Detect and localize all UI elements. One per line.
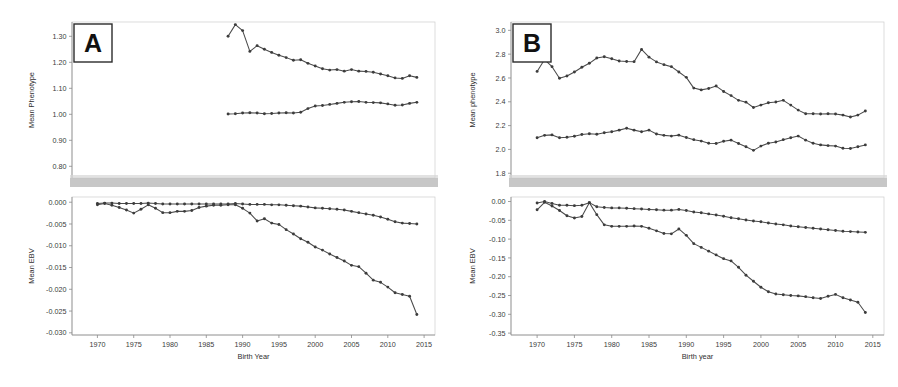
panel-b-ebv-lower-ebv-series-point — [774, 293, 777, 296]
panel-b-ebv-x-ticklabel: 1985 — [641, 340, 657, 349]
panel-b-phenotype-upper-phenotype-series-point — [804, 112, 807, 115]
panel-a-ebv-x-ticklabel: 2005 — [344, 340, 360, 349]
panel-a-phenotype-upper-phenotype-series-point — [328, 69, 331, 72]
panel-a-phenotype-upper-phenotype-series-point — [227, 35, 230, 38]
panel-b-ebv-upper-ebv-series-point — [819, 228, 822, 231]
panel-b-ebv-lower-ebv-series-point — [588, 201, 591, 204]
panel-a-ebv-upper-ebv-series-point — [307, 206, 310, 209]
panel-b-phenotype-lower-phenotype-series-point — [842, 147, 845, 150]
panel-b-ebv-upper-ebv-series-point — [834, 229, 837, 232]
panel-a-ebv-upper-ebv-series-point — [401, 222, 404, 225]
panel-a-phenotype-upper-phenotype-series-point — [256, 44, 259, 47]
panel-b-phenotype-upper-phenotype-series-point — [752, 106, 755, 109]
panel-a-phenotype-plot-frame — [72, 22, 435, 178]
panel-b-phenotype-upper-phenotype-series-point — [782, 99, 785, 102]
panel-b-phenotype-upper-phenotype-series-point — [558, 77, 561, 80]
panel-b-phenotype-upper-phenotype-series-point — [812, 112, 815, 115]
panel-a-ebv-lower-ebv-series-point — [336, 256, 339, 259]
panel-a-ebv-upper-ebv-series-point — [365, 213, 368, 216]
panel-b-phenotype-lower-phenotype-series-point — [633, 129, 636, 132]
panel-a: 1.301.201.101.000.900.80Mean Phenotype0.… — [0, 0, 449, 387]
panel-b-phenotype-upper-phenotype-series-point — [827, 112, 830, 115]
panel-a-phenotype-lower-phenotype-series-point — [394, 104, 397, 107]
scan-artifact-band — [70, 178, 438, 187]
panel-a-phenotype-lower-phenotype-series-point — [350, 100, 353, 103]
panel-b-phenotype-upper-phenotype-series-point — [603, 55, 606, 58]
panel-b-ebv-upper-ebv-series-point — [648, 208, 651, 211]
panel-b-ebv-x-ticklabel: 2015 — [865, 340, 881, 349]
panel-b-ebv-lower-ebv-series-point — [715, 253, 718, 256]
panel-b-ebv-upper-ebv-series-point — [745, 218, 748, 221]
panel-b-phenotype-lower-phenotype-series-point — [685, 136, 688, 139]
panel-b-phenotype-lower-phenotype-series-point — [812, 142, 815, 145]
panel-b-ebv-upper-ebv-series-point — [618, 206, 621, 209]
panel-b-ebv-lower-ebv-series-point — [812, 296, 815, 299]
panel-b-ebv-lower-ebv-series-point — [648, 227, 651, 230]
panel-a-ebv-y-ticklabel: 0.000 — [49, 198, 67, 207]
panel-b-ebv-upper-ebv-series-point — [842, 230, 845, 233]
panel-b-ebv-lower-ebv-series-point — [819, 297, 822, 300]
panel-b-ebv-x-ticklabel: 1975 — [566, 340, 582, 349]
panel-a-ebv-group: 0.000-0.005-0.010-0.015-0.020-0.025-0.03… — [27, 197, 435, 361]
panel-b-phenotype-lower-phenotype-series-point — [700, 140, 703, 143]
panel-b-phenotype-lower-phenotype-series-point — [707, 142, 710, 145]
panel-b-phenotype-lower-phenotype-series-point — [759, 145, 762, 148]
panel-b-ebv-upper-ebv-series-point — [595, 205, 598, 208]
panel-b-phenotype-upper-phenotype-series-point — [767, 101, 770, 104]
panel-a-ebv-upper-ebv-series-point — [314, 206, 317, 209]
panel-b-ebv-x-ticklabel: 1990 — [678, 340, 694, 349]
panel-a-ebv-lower-ebv-series-point — [205, 205, 208, 208]
panel-b-phenotype-lower-phenotype-series-point — [580, 133, 583, 136]
panel-b-ebv-upper-ebv-series-point — [812, 227, 815, 230]
panel-a-phenotype-upper-phenotype-series-point — [241, 29, 244, 32]
panel-b-ebv-lower-ebv-series-point — [625, 225, 628, 228]
panel-a-ebv-lower-ebv-series-point — [343, 260, 346, 263]
panel-a-phenotype-lower-phenotype-series-point — [408, 102, 411, 105]
panel-a-ebv-upper-ebv-series-point — [299, 205, 302, 208]
panel-a-ebv-x-ticklabel: 2015 — [416, 340, 432, 349]
panel-b-ebv-upper-ebv-series-point — [707, 212, 710, 215]
panel-b-ebv-lower-ebv-series-point — [864, 311, 867, 314]
panel-b-ebv-upper-ebv-series-point — [789, 225, 792, 228]
panel-a-ebv-upper-ebv-series-point — [176, 203, 179, 206]
panel-b-phenotype-lower-phenotype-series-point — [864, 143, 867, 146]
panel-a-ebv-x-ticklabel: 1980 — [162, 340, 178, 349]
panel-a-phenotype-lower-phenotype-series-point — [241, 112, 244, 115]
panel-b-ebv-y-ticklabel: -0.05 — [489, 216, 505, 225]
panel-a-ebv-upper-ebv-series-point — [394, 220, 397, 223]
panel-b-ebv-upper-ebv-series-point — [677, 208, 680, 211]
panel-a-ebv-y-ticklabel: -0.030 — [46, 328, 66, 337]
panel-a-ebv-upper-ebv-series-point — [190, 203, 193, 206]
panel-b-phenotype-lower-phenotype-series-point — [745, 145, 748, 148]
panel-b-ebv-lower-ebv-series-point — [655, 229, 658, 232]
panel-b-ebv-lower-ebv-series-point — [849, 299, 852, 302]
panel-a-phenotype-upper-phenotype-series-point — [372, 71, 375, 74]
panel-b-tag-text: B — [523, 29, 541, 57]
panel-b-phenotype-y-axis-title: Mean phenotype — [468, 72, 477, 127]
panel-a-ebv-upper-ebv-series-point — [379, 216, 382, 219]
panel-a-ebv-upper-ebv-series-point — [118, 202, 121, 205]
panel-a-ebv-x-ticklabel: 2000 — [307, 340, 323, 349]
panel-a-phenotype-y-ticklabel: 0.90 — [53, 136, 67, 145]
panel-a-ebv-upper-ebv-series-point — [140, 202, 143, 205]
panel-b-phenotype-lower-phenotype-series-point — [543, 134, 546, 137]
panel-b-ebv-lower-ebv-series-point — [752, 280, 755, 283]
panel-b-phenotype-y-ticklabel: 3.0 — [496, 26, 506, 35]
panel-a-ebv-upper-ebv-series-point — [328, 207, 331, 210]
panel-b-phenotype-lower-phenotype-series-point — [610, 130, 613, 133]
panel-a-ebv-y-ticklabel: -0.015 — [46, 263, 66, 272]
panel-b-svg: 3.02.82.62.42.22.01.8Mean phenotype0.00-… — [449, 0, 898, 387]
panel-a-phenotype-lower-phenotype-series-point — [263, 112, 266, 115]
panel-b-phenotype-upper-phenotype-series-point — [595, 57, 598, 60]
panel-b-ebv-lower-ebv-series-point — [707, 250, 710, 253]
panel-a-ebv-upper-ebv-series-point — [183, 203, 186, 206]
panel-b-ebv-y-ticklabel: -0.25 — [489, 291, 505, 300]
panel-a-ebv-lower-ebv-series-point — [350, 264, 353, 267]
panel-a-phenotype-upper-phenotype-series-point — [350, 68, 353, 71]
panel-b-phenotype-upper-phenotype-series-point — [566, 75, 569, 78]
panel-a-ebv-lower-ebv-series-point — [147, 203, 150, 206]
panel-b-phenotype-lower-phenotype-series-point — [573, 135, 576, 138]
panel-b-ebv-lower-ebv-series-point — [640, 225, 643, 228]
panel-b-phenotype-upper-phenotype-series-point — [789, 104, 792, 107]
panel-a-ebv-lower-ebv-series-point — [96, 203, 99, 206]
